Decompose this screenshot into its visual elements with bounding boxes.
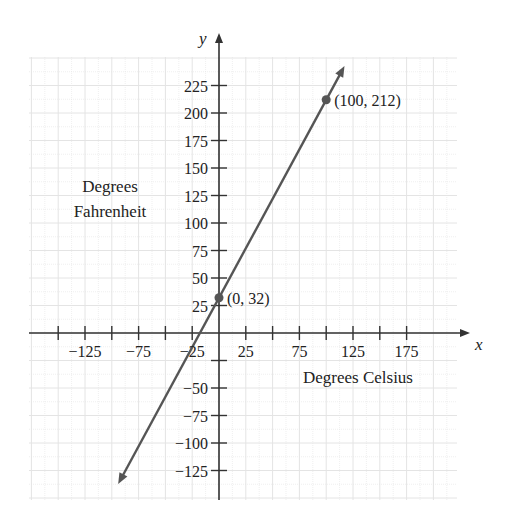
y-tick-label: 75 xyxy=(192,243,208,260)
x-tick-label: 75 xyxy=(291,343,307,360)
y-tick-label: 100 xyxy=(184,215,208,232)
data-point xyxy=(215,293,224,302)
y-tick-label: −75 xyxy=(183,408,208,425)
data-point xyxy=(322,95,331,104)
x-axis-arrow-icon xyxy=(460,329,470,337)
x-tick-label: 25 xyxy=(238,343,254,360)
x-tick-label: −25 xyxy=(180,343,205,360)
y-axis-letter: y xyxy=(197,29,207,48)
y-tick-label: 25 xyxy=(192,298,208,315)
celsius-fahrenheit-chart: (0, 32)(100, 212) −125−75−25257512517522… xyxy=(0,0,508,528)
y-axis-title-line1: Degrees xyxy=(82,177,138,196)
y-tick-label: 225 xyxy=(184,78,208,95)
y-tick-label: 125 xyxy=(184,188,208,205)
x-tick-label: −125 xyxy=(68,343,101,360)
y-tick-label: 50 xyxy=(192,270,208,287)
data-point-label: (100, 212) xyxy=(334,92,401,110)
axes xyxy=(29,33,470,500)
grid xyxy=(29,57,457,500)
x-tick-label: 125 xyxy=(341,343,365,360)
y-tick-label: 150 xyxy=(184,160,208,177)
x-tick-label: −75 xyxy=(126,343,151,360)
y-axis-arrow-icon xyxy=(215,33,223,43)
y-tick-label: −50 xyxy=(183,380,208,397)
y-tick-label: 200 xyxy=(184,105,208,122)
data-points: (0, 32)(100, 212) xyxy=(215,92,401,308)
x-axis-title: Degrees Celsius xyxy=(303,368,413,387)
data-point-label: (0, 32) xyxy=(227,290,270,308)
y-tick-label: 175 xyxy=(184,133,208,150)
y-tick-label: −125 xyxy=(175,463,208,480)
y-axis-title-line2: Fahrenheit xyxy=(74,202,147,221)
x-axis-letter: x xyxy=(474,335,483,354)
y-tick-label: −100 xyxy=(175,435,208,452)
x-tick-label: 175 xyxy=(395,343,419,360)
